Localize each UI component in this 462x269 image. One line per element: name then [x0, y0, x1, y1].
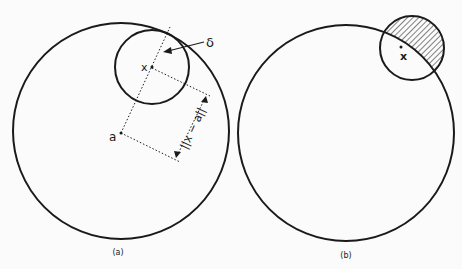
delta-arrowhead-icon	[163, 47, 172, 54]
panel-b: x (b)	[238, 10, 454, 260]
caption-b: (b)	[340, 251, 351, 260]
arrowhead-bottom-icon	[174, 151, 181, 158]
label-delta: δ	[206, 35, 214, 50]
caption-a: (a)	[112, 248, 123, 257]
perp-from-a	[121, 133, 180, 162]
point-x-b	[400, 46, 403, 49]
label-x-a: x	[141, 61, 148, 74]
perp-from-x	[152, 68, 210, 96]
panel-a: x a δ ||x − a|| (a)	[13, 23, 229, 257]
figure-canvas: x a δ ||x − a|| (a) x (b)	[0, 0, 462, 269]
point-x-a	[151, 66, 154, 69]
point-a	[120, 132, 123, 135]
delta-arrow-line	[168, 42, 204, 51]
label-x-b: x	[400, 50, 407, 63]
label-a: a	[109, 130, 116, 144]
radial-dotted-line	[121, 27, 170, 133]
label-distance: ||x − a||	[178, 106, 209, 152]
arrowhead-top-icon	[201, 96, 208, 103]
